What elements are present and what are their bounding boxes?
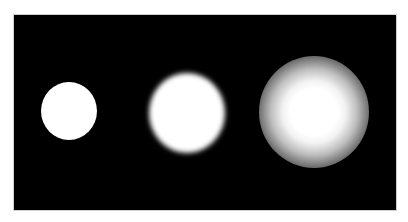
- sharp-white-disc: [41, 82, 97, 140]
- black-frame: [13, 14, 397, 211]
- heavily-blurred-white-disc: [259, 56, 369, 168]
- slightly-blurred-white-disc: [149, 73, 225, 153]
